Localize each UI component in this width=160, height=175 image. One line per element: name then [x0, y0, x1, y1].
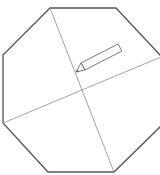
octagon-diagram: [0, 0, 160, 175]
